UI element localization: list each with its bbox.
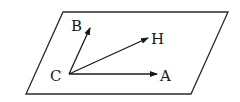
vector-ch-arrow <box>69 38 148 74</box>
diagram-canvas: C B H A <box>0 0 240 102</box>
diagram-svg: C B H A <box>0 0 240 102</box>
point-label-a: A <box>159 67 171 85</box>
point-label-b: B <box>71 17 82 35</box>
point-label-h: H <box>151 30 164 48</box>
point-label-c: C <box>50 67 61 85</box>
